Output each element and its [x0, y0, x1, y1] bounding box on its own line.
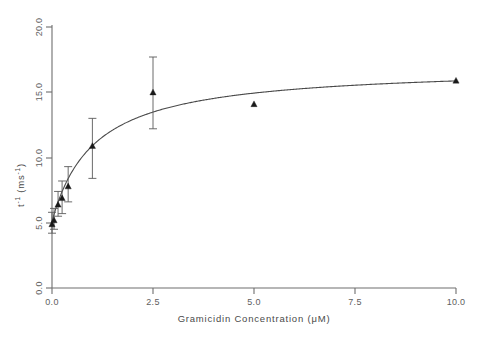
y-axis-label-base-exponent: -1: [14, 196, 21, 203]
y-axis-ticks: [46, 27, 52, 288]
y-tick-label-0: 0.0: [34, 281, 44, 294]
y-tick-labels: 20.0 15.0 10.0 5.0 0.0: [34, 18, 44, 295]
y-tick-label-5: 5.0: [34, 216, 44, 229]
axes-group: [52, 25, 456, 288]
error-bars-group: [48, 57, 157, 233]
x-tick-label-10: 10.0: [447, 297, 466, 307]
data-point-marker: [55, 201, 61, 207]
x-axis-ticks: [52, 288, 456, 294]
y-axis-label-unit-open: (ms: [15, 174, 26, 192]
data-markers-group: [49, 77, 459, 226]
chart-svg: 20.0 15.0 10.0 5.0 0.0 0.0 2.5 5.0 7.5 1…: [0, 0, 480, 338]
x-tick-label-5: 5.0: [247, 297, 260, 307]
x-tick-labels: 0.0 2.5 5.0 7.5 10.0: [45, 297, 465, 307]
y-tick-label-10: 10.0: [34, 149, 44, 168]
data-point-marker: [150, 89, 156, 95]
y-axis-label-unit-close: ): [15, 163, 26, 167]
y-tick-label-20: 20.0: [34, 18, 44, 37]
x-tick-label-0: 0.0: [45, 297, 58, 307]
x-axis-label: Gramicidin Concentration (μM): [178, 313, 331, 324]
y-axis-label: t-1 (ms-1): [14, 163, 26, 207]
chart-figure: 20.0 15.0 10.0 5.0 0.0 0.0 2.5 5.0 7.5 1…: [0, 0, 480, 338]
data-point-marker: [251, 101, 257, 107]
svg-text:t-1 (ms-1): t-1 (ms-1): [14, 163, 26, 207]
y-axis-label-unit-exponent: -1: [14, 167, 21, 174]
data-point-marker: [453, 77, 459, 83]
y-tick-label-15: 15.0: [34, 83, 44, 102]
x-tick-label-7p5: 7.5: [348, 297, 361, 307]
x-tick-label-2p5: 2.5: [146, 297, 159, 307]
